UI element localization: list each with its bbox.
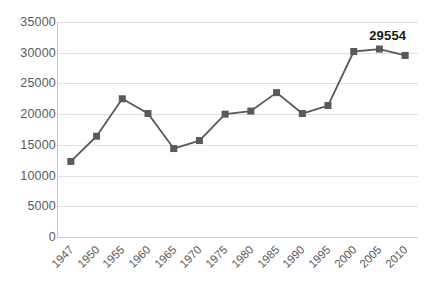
x-axis-tick-label: 1995: [307, 244, 334, 271]
data-point-marker: [402, 52, 409, 59]
line-chart: 05000100001500020000250003000035000 1947…: [0, 0, 438, 285]
y-axis-tick-label: 5000: [27, 200, 56, 213]
data-point-marker: [119, 95, 126, 102]
data-point-marker: [376, 46, 383, 53]
y-axis-tick-label: 25000: [20, 77, 56, 90]
x-axis-tick-label: 1970: [178, 244, 205, 271]
data-point-marker: [299, 110, 306, 117]
data-point-marker: [145, 110, 152, 117]
y-axis-tick-label: 20000: [20, 108, 56, 121]
x-axis-tick-label: 1950: [75, 244, 102, 271]
data-point-marker: [222, 111, 229, 118]
data-point-marker: [196, 137, 203, 144]
data-series-line: [58, 22, 418, 237]
y-axis-tick-label: 0: [49, 231, 56, 244]
y-axis-tick-label: 10000: [20, 169, 56, 182]
x-axis-tick-label: 1980: [229, 244, 256, 271]
x-axis-tick-label: 1985: [255, 244, 282, 271]
series-polyline: [71, 49, 405, 161]
x-axis-tick-label: 1947: [49, 244, 76, 271]
y-axis-tick-label: 15000: [20, 139, 56, 152]
x-axis-tick-label: 2005: [358, 244, 385, 271]
data-point-marker: [170, 145, 177, 152]
x-axis-tick-label: 1990: [281, 244, 308, 271]
x-axis-tick-label: 1960: [127, 244, 154, 271]
data-point-label: 29554: [369, 29, 406, 42]
data-point-marker: [325, 102, 332, 109]
data-point-marker: [247, 108, 254, 115]
x-axis-tick-label: 2010: [384, 244, 411, 271]
plot-area: [57, 22, 418, 238]
y-axis-tick-label: 35000: [20, 16, 56, 29]
data-point-marker: [67, 158, 74, 165]
data-point-marker: [273, 89, 280, 96]
x-axis-tick-label: 1965: [152, 244, 179, 271]
x-axis-tick-label: 2000: [332, 244, 359, 271]
x-axis-tick-label: 1955: [101, 244, 128, 271]
data-point-marker: [350, 48, 357, 55]
y-axis-tick-label: 30000: [20, 46, 56, 59]
x-axis-tick-label: 1975: [204, 244, 231, 271]
data-point-marker: [93, 133, 100, 140]
